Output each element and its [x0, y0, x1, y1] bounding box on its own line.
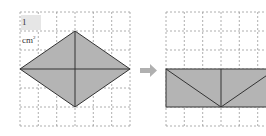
rearranged-rectangle	[166, 69, 266, 107]
right-arrow-icon	[140, 64, 157, 77]
unit-label-text: 1 cm	[22, 17, 33, 45]
unit-label-sup: 2	[33, 35, 36, 40]
unit-area-label: 1 cm2	[21, 15, 41, 30]
rhombus	[20, 31, 130, 107]
